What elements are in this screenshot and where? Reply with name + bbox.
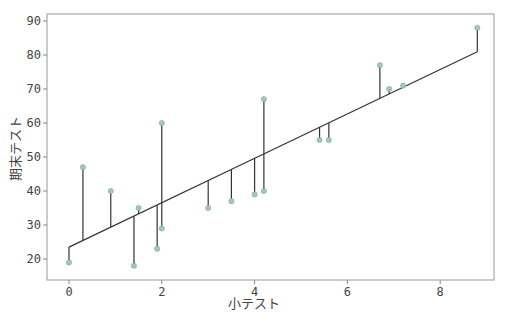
data-point — [66, 260, 71, 265]
data-point — [206, 205, 211, 210]
y-axis-ticks: 2030405060708090 — [27, 14, 47, 266]
y-tick-label: 70 — [27, 82, 41, 96]
x-tick-label: 2 — [158, 285, 165, 299]
x-tick-label: 8 — [437, 285, 444, 299]
x-tick-label: 0 — [65, 285, 72, 299]
y-tick-label: 30 — [27, 218, 41, 232]
y-axis-label: 期末テスト — [8, 116, 23, 181]
data-point — [317, 137, 322, 142]
data-point — [261, 97, 266, 102]
data-point — [400, 83, 405, 88]
data-point — [131, 263, 136, 268]
data-point — [229, 199, 234, 204]
data-point — [80, 165, 85, 170]
data-point — [261, 188, 266, 193]
data-point — [377, 63, 382, 68]
data-point — [155, 246, 160, 251]
data-point — [252, 192, 257, 197]
y-tick-label: 90 — [27, 14, 41, 28]
data-point — [387, 86, 392, 91]
y-tick-label: 80 — [27, 48, 41, 62]
data-point — [475, 25, 480, 30]
data-point — [159, 226, 164, 231]
scatter-chart: 02468 2030405060708090 小テスト 期末テスト — [0, 0, 513, 326]
data-point — [108, 188, 113, 193]
data-point — [136, 205, 141, 210]
data-point — [159, 120, 164, 125]
y-tick-label: 20 — [27, 252, 41, 266]
data-point — [326, 137, 331, 142]
x-tick-label: 6 — [344, 285, 351, 299]
y-tick-label: 50 — [27, 150, 41, 164]
y-tick-label: 60 — [27, 116, 41, 130]
plot-area — [47, 14, 494, 280]
x-axis-label: 小テスト — [228, 296, 280, 311]
y-tick-label: 40 — [27, 184, 41, 198]
